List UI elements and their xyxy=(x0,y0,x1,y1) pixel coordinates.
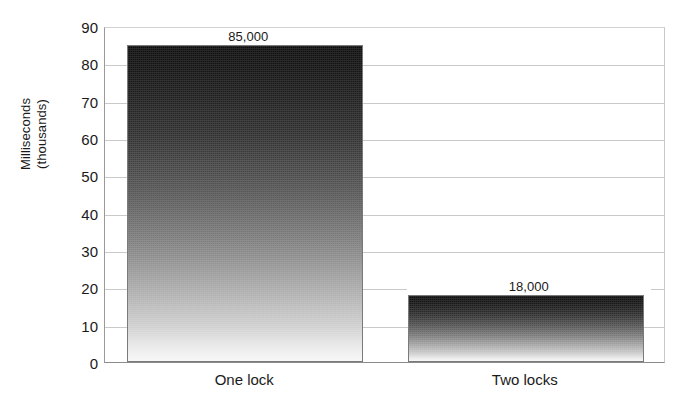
x-category-label: Two locks xyxy=(385,372,666,388)
x-category-label: One lock xyxy=(104,372,385,388)
y-tick-label: 10 xyxy=(56,319,98,334)
y-tick-label: 60 xyxy=(56,132,98,147)
bar xyxy=(408,295,644,362)
bar-texture xyxy=(128,46,362,361)
y-axis-tick-labels: 0102030405060708090 xyxy=(56,0,98,402)
plot-area xyxy=(104,27,665,363)
y-tick-label: 50 xyxy=(56,169,98,184)
y-tick-label: 70 xyxy=(56,95,98,110)
bar-value-label: 18,000 xyxy=(407,279,651,294)
y-tick-label: 90 xyxy=(56,20,98,35)
bar-chart: Milliseconds (thousands) 010203040506070… xyxy=(0,0,682,402)
bar xyxy=(127,45,363,362)
bar-value-label: 85,000 xyxy=(126,29,370,44)
y-tick-label: 0 xyxy=(56,356,98,371)
y-tick-label: 40 xyxy=(56,207,98,222)
y-tick-label: 20 xyxy=(56,281,98,296)
y-axis-title: Milliseconds (thousands) xyxy=(18,54,50,214)
y-tick-label: 30 xyxy=(56,244,98,259)
y-tick-label: 80 xyxy=(56,57,98,72)
bar-texture xyxy=(409,296,643,361)
